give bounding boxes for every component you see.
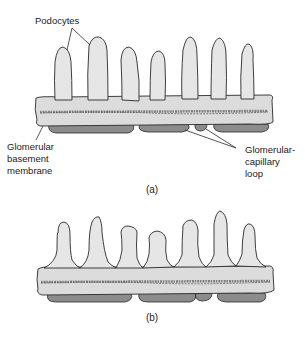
label-gbm-line3: membrane — [7, 165, 52, 176]
label-gbm-line1: Glomerular — [7, 141, 54, 152]
caption-b: (b) — [146, 312, 158, 323]
panel-a: Podocytes Glomerular basement membrane G… — [7, 15, 295, 195]
panel-b: (b) — [37, 211, 274, 323]
label-capillary-line3: loop — [245, 168, 263, 179]
label-capillary-line2: capillary — [245, 156, 280, 167]
caption-a: (a) — [146, 184, 158, 195]
label-capillary-line1: Glomerular- — [245, 144, 295, 155]
label-gbm-line2: basement — [7, 153, 49, 164]
basement-membrane-b — [37, 266, 274, 295]
label-podocytes: Podocytes — [35, 15, 80, 26]
podocyte-diagram: Podocytes Glomerular basement membrane G… — [0, 0, 305, 342]
podocytes-b — [44, 211, 266, 268]
podocytes-a — [55, 37, 255, 101]
